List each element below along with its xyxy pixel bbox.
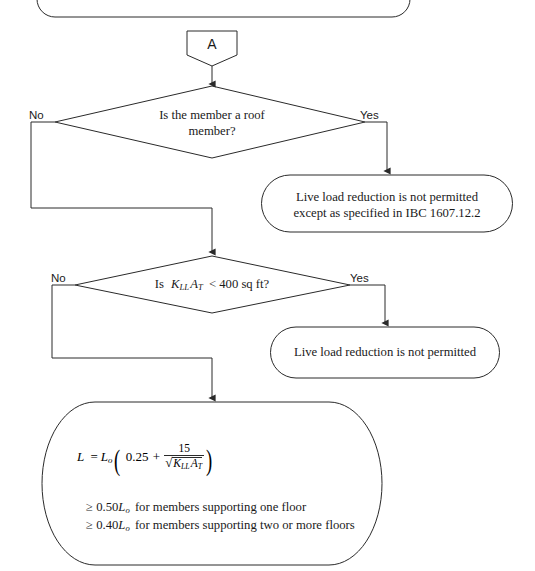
equation-lo-symbol: L bbox=[101, 449, 108, 464]
equation-close-paren: ) bbox=[206, 451, 212, 470]
note2-coefficient: 0.40 bbox=[96, 518, 118, 532]
equation-den-k-sub: LL bbox=[181, 462, 190, 471]
branch-label-area-yes: Yes bbox=[350, 271, 369, 285]
decision-area-comparison: < 400 sq ft? bbox=[209, 277, 269, 291]
arrow-area-yes bbox=[350, 285, 385, 323]
result-area-line1: Live load reduction is not permitted bbox=[294, 345, 476, 360]
equation-numerator: 15 bbox=[164, 442, 204, 454]
decision-area-k-symbol: K bbox=[171, 277, 179, 291]
arrow-roof-yes bbox=[365, 122, 387, 171]
arrow-roof-no bbox=[31, 122, 212, 252]
square-root-icon: KLLAT bbox=[166, 457, 202, 471]
note1-symbol: ≥ bbox=[86, 500, 93, 514]
equation-den-k: K bbox=[173, 457, 181, 469]
equation-equals: = bbox=[90, 449, 97, 464]
branch-label-roof-yes: Yes bbox=[360, 108, 379, 122]
equation-denominator: KLLAT bbox=[164, 457, 204, 471]
equation-den-a: A bbox=[191, 457, 198, 469]
result-roof-line1: Live load reduction is not permitted bbox=[296, 190, 478, 205]
note2-text: for members supporting two or more floor… bbox=[135, 518, 355, 532]
decision-roof-line1: Is the member a roof bbox=[159, 108, 265, 123]
note1-coefficient: 0.50 bbox=[96, 500, 118, 514]
equation-plus: + bbox=[153, 449, 160, 464]
decision-area-prefix: Is bbox=[155, 277, 164, 291]
previous-step-box-partial bbox=[37, 0, 410, 17]
result-roof-line2: except as specified in IBC 1607.12.2 bbox=[293, 206, 480, 221]
connector-label: A bbox=[207, 36, 216, 53]
note2-symbol: ≥ bbox=[86, 518, 93, 532]
decision-area-k-subscript: LL bbox=[180, 282, 190, 292]
decision-area-a-symbol: A bbox=[190, 277, 198, 291]
equation-fraction: 15 KLLAT bbox=[164, 442, 204, 471]
note1-var-sub: o bbox=[125, 505, 129, 515]
formula-result-box bbox=[42, 402, 382, 565]
equation-den-a-sub: T bbox=[198, 462, 202, 471]
equation-constant: 0.25 bbox=[126, 449, 149, 464]
branch-label-area-no: No bbox=[51, 271, 66, 285]
arrow-area-no bbox=[52, 285, 212, 398]
equation-lhs: L bbox=[77, 449, 84, 464]
note2-var-sub: o bbox=[125, 523, 129, 533]
note1-text: for members supporting one floor bbox=[135, 500, 306, 514]
reduction-equation: L =Lo( 0.25 + 15 KLLAT ) bbox=[77, 442, 214, 471]
branch-label-roof-no: No bbox=[29, 108, 44, 122]
decision-roof-line2: member? bbox=[188, 124, 235, 139]
equation-lo-subscript: o bbox=[108, 455, 112, 465]
decision-area-a-subscript: T bbox=[198, 282, 203, 292]
formula-note-one-floor: ≥ 0.50Lo for members supporting one floo… bbox=[86, 500, 306, 516]
decision-area-text: Is KLLAT < 400 sq ft? bbox=[155, 277, 270, 293]
equation-open-paren: ( bbox=[114, 451, 120, 470]
formula-note-two-floors: ≥ 0.40Lo for members supporting two or m… bbox=[86, 518, 355, 534]
flowchart-canvas: A Is the member a roof member? No Yes Li… bbox=[0, 0, 535, 571]
